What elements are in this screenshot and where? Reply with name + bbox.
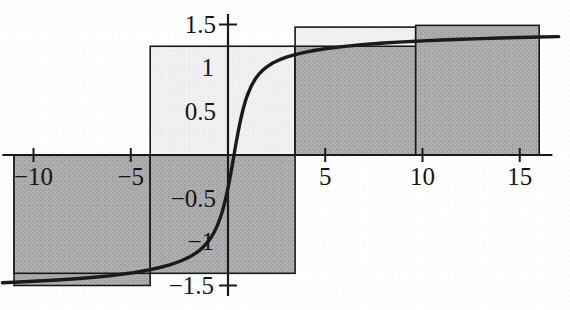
x-tick-label-−5: −5 (117, 163, 144, 190)
bar-far-right (416, 25, 540, 155)
x-tick-label-5: 5 (319, 163, 332, 190)
chart-figure: −10−5510151.510.5−0.5−1−1.5 (0, 0, 570, 310)
x-tick-label-15: 15 (507, 163, 532, 190)
y-tick-label--1.5: −1.5 (169, 272, 214, 299)
bar-right-dark (295, 46, 416, 155)
y-tick-label--0.5: −0.5 (171, 185, 216, 212)
x-tick-label-−10: −10 (14, 163, 53, 190)
y-tick-label-1: 1 (202, 54, 215, 81)
step-function-chart: −10−5510151.510.5−0.5−1−1.5 (0, 0, 570, 310)
y-tick-label--1: −1 (187, 228, 214, 255)
y-tick-label-0.5: 0.5 (185, 98, 216, 125)
y-tick-label-1.5: 1.5 (185, 11, 216, 38)
x-tick-label-10: 10 (410, 163, 435, 190)
